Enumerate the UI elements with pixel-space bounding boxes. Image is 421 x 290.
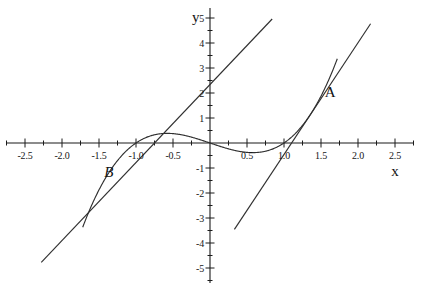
- y-tick-label: 4: [184, 38, 204, 49]
- y-tick-label: -1: [184, 163, 204, 174]
- y-tick-label: 3: [184, 63, 204, 74]
- x-tick-label: 2.5: [389, 150, 401, 161]
- tangent-line-at-A: [234, 24, 370, 230]
- plot-canvas: [0, 0, 421, 290]
- x-tick-label: -1.0: [128, 150, 143, 161]
- plot-figure: -2.5-2.0-1.5-1.0-0.50.51.01.52.02.5 5432…: [0, 0, 421, 290]
- y-tick-label: -5: [184, 263, 204, 274]
- x-axis-label: x: [391, 163, 399, 180]
- x-tick-label: 0.5: [241, 150, 253, 161]
- tangent-line-at-B: [41, 19, 272, 262]
- tangent-point-label-b: B: [104, 164, 113, 181]
- y-tick-label: 2: [184, 88, 204, 99]
- x-tick-label: 2.0: [352, 150, 364, 161]
- y-tick-label: -3: [184, 213, 204, 224]
- y-axis-label: y: [192, 9, 200, 26]
- x-tick-label: -2.0: [54, 150, 69, 161]
- x-tick-label: -1.5: [91, 150, 106, 161]
- y-tick-label: 1: [184, 113, 204, 124]
- y-tick-label: -4: [184, 238, 204, 249]
- y-tick-label: -2: [184, 188, 204, 199]
- tangent-point-label-a: A: [325, 84, 336, 101]
- x-tick-label: -2.5: [17, 150, 32, 161]
- axes-group: [7, 8, 414, 283]
- x-tick-label: -0.5: [165, 150, 180, 161]
- x-tick-label: 1.5: [315, 150, 327, 161]
- x-tick-label: 1.0: [278, 150, 290, 161]
